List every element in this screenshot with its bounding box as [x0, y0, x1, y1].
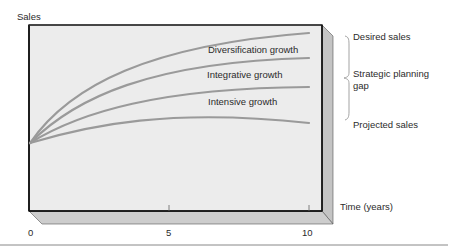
y-axis-label: Sales: [17, 11, 41, 22]
label-diversification-growth: Diversification growth: [208, 44, 298, 55]
gap-brace-icon: [344, 36, 349, 120]
panel-side-face: [322, 25, 333, 224]
label-strategic-gap-line2: gap: [353, 80, 369, 91]
x-tick-label-5: 5: [166, 227, 171, 238]
x-axis-label: Time (years): [340, 201, 393, 212]
label-strategic-gap-line1: Strategic planning: [353, 68, 429, 79]
label-integrative-growth: Integrative growth: [207, 69, 283, 80]
panel-bottom-face: [29, 211, 333, 224]
x-tick-label-10: 10: [302, 227, 313, 238]
label-projected-sales: Projected sales: [353, 119, 418, 130]
label-desired-sales: Desired sales: [353, 31, 411, 42]
x-tick-label-0: 0: [28, 227, 33, 238]
strategic-planning-gap-diagram: Sales Time (years) 0 5 10 Diversificatio…: [0, 0, 451, 248]
label-intensive-growth: Intensive growth: [208, 96, 277, 107]
